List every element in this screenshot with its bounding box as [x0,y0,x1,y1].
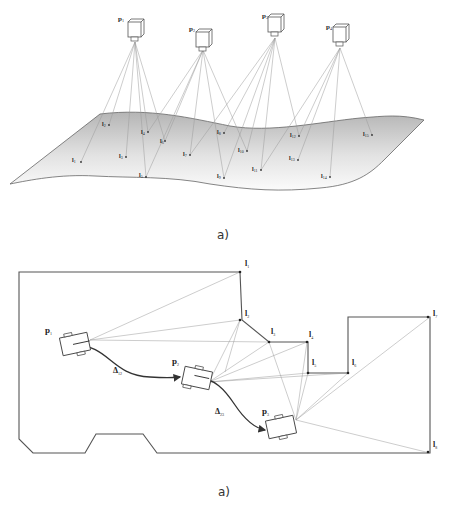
camera-label-p2: p2 [189,25,195,33]
landmark-label-l7: l7 [183,151,187,158]
landmark-label-b-l1: l1 [245,259,249,269]
caption-a-top: a) [217,228,229,242]
landmark-label-b-l3: l3 [271,327,275,337]
landmark-label-b-l6: l6 [352,358,356,368]
figure-canvas: p1 p2 p3 p4 l1 l2 l3 l4 l5 l6 l7 l8 l9 l… [0,0,452,506]
pose-label-p2: p2 [172,356,179,367]
landmark-label-l3: l3 [119,153,123,160]
landmark-label-l8: l8 [217,129,221,136]
landmark-label-l6: l6 [160,138,164,145]
motion-label-23: Δ23 [215,407,224,417]
landmark-label-l14: l14 [321,173,327,180]
landmark-label-l10: l10 [238,147,244,154]
landmark-label-b-l7: l7 [433,309,437,319]
landmark-label-l4: l4 [141,129,145,136]
pose-label-p3: p3 [262,406,269,417]
camera-p2 [196,29,212,51]
landmark-label-l5: l5 [139,172,143,179]
landmark-label-b-l5: l5 [312,358,316,368]
robot-map-diagram: p1 p2 p3 Δ12 Δ23 l1 l2 l3 l4 l5 l6 l7 l8… [19,259,437,499]
camera-label-p1: p1 [118,15,124,23]
camera-p1 [128,19,144,41]
environment-walls [19,272,430,453]
landmark-label-l9: l9 [217,173,221,180]
robot-p1 [59,329,92,359]
landmark-label-b-l8: l8 [433,440,437,450]
robot-p2 [181,363,213,392]
sight-lines [90,272,430,453]
landmark-label-b-l2: l2 [245,309,249,319]
landmark-label-l11: l11 [252,166,258,173]
landmark-label-l12: l12 [290,132,296,139]
robot-p3 [265,412,297,441]
camera-label-p3: p3 [262,12,268,20]
landmark-label-l2: l2 [102,121,106,128]
landmark-label-l13: l13 [289,155,295,162]
surface-diagram: p1 p2 p3 p4 l1 l2 l3 l4 l5 l6 l7 l8 l9 l… [10,12,424,242]
landmark-label-l1: l1 [72,157,76,164]
camera-label-p4: p4 [326,23,332,31]
camera-p3 [268,14,284,36]
caption-a-bottom: a) [218,485,230,499]
camera-p4 [333,24,349,46]
landmark-label-b-l4: l4 [309,330,313,340]
pose-label-p1: p1 [45,325,52,336]
landmark-label-l15: l15 [363,131,369,138]
